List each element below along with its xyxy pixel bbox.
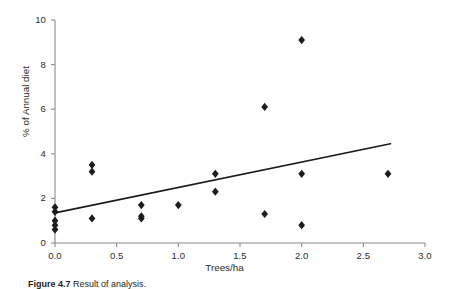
x-tick-label: 1.0 [161,250,195,261]
data-points-group [52,36,392,234]
data-point [298,170,305,178]
regression-line [55,144,390,213]
scatter-plot: 0246810 0.00.51.01.52.02.53.0 % of Annua… [0,0,449,289]
data-point [89,168,96,176]
data-point [89,214,96,222]
data-point [261,210,268,218]
data-point [385,170,392,178]
data-point [175,201,182,209]
x-tick-label: 0.5 [100,250,134,261]
data-point [261,103,268,111]
figure-caption-label: Figure 4.7 [28,279,71,289]
y-axis-title: % of Annual diet [20,54,31,150]
data-point [212,188,219,196]
x-tick-label: 1.5 [223,250,257,261]
y-tick-label: 2 [24,192,46,203]
chart-canvas [0,0,449,289]
data-point [52,226,59,234]
figure-container: 0246810 0.00.51.01.52.02.53.0 % of Annua… [0,0,449,289]
figure-caption-text: Result of analysis. [73,279,146,289]
axes [55,20,425,243]
x-tick-label: 2.0 [285,250,319,261]
data-point [52,208,59,216]
x-axis-title: Trees/ha [0,262,449,273]
y-tick-label: 10 [24,14,46,25]
data-point [298,221,305,229]
x-tick-label: 2.5 [346,250,380,261]
data-point [212,170,219,178]
x-tick-label: 3.0 [408,250,442,261]
x-axis-ticks [55,243,425,247]
y-tick-label: 0 [24,237,46,248]
data-point [298,36,305,44]
x-tick-label: 0.0 [38,250,72,261]
regression-line-group [55,144,390,213]
data-point [138,201,145,209]
figure-caption: Figure 4.7 Result of analysis. [28,279,446,289]
